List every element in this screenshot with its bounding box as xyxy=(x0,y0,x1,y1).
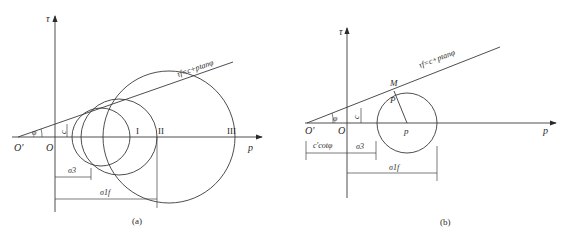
failure-envelope-line xyxy=(307,47,500,123)
sigma3-label: σ3 xyxy=(68,166,76,175)
c-label: c xyxy=(59,130,68,134)
origin-label: O xyxy=(46,142,53,153)
origin-prime-label: O' xyxy=(305,125,315,136)
phi-label: φ xyxy=(32,128,37,137)
c-label: c xyxy=(352,115,361,119)
sigma3-label: σ3 xyxy=(356,142,364,151)
circle-III-label: III xyxy=(227,126,236,136)
p-axis-label: p xyxy=(542,125,548,136)
panel-a: τ p O' O τf=c+ptanφ φ c I II III σ3 σ1f … xyxy=(12,13,262,226)
origin-prime-label: O' xyxy=(14,142,24,153)
center-label: p xyxy=(403,126,409,136)
caption-a: (a) xyxy=(132,216,142,226)
phi-angle-arc xyxy=(41,129,42,137)
circle-II-label: II xyxy=(158,126,164,136)
panel-b: τ p O' O τf=c+ptanφ φ c M P p c'cotφ σ3 … xyxy=(305,26,556,227)
sigma1f-label: σ1f xyxy=(100,188,112,197)
p-axis-label: p xyxy=(247,142,253,153)
phi-label: φ xyxy=(333,114,338,123)
tau-axis-label: τ xyxy=(339,26,343,37)
radius-line xyxy=(394,91,407,123)
circle-I-label: I xyxy=(136,126,139,136)
origin-label: O xyxy=(338,125,345,136)
tangent-point-label: M xyxy=(389,78,398,88)
tau-axis-label: τ xyxy=(46,13,50,24)
caption-b: (b) xyxy=(440,217,451,227)
envelope-equation-label: τf=c+ptanφ xyxy=(176,58,215,79)
sigma1f-label: σ1f xyxy=(389,163,401,172)
mohr-coulomb-diagram: τ p O' O τf=c+ptanφ φ c I II III σ3 σ1f … xyxy=(0,0,565,239)
ccot-label: c'cotφ xyxy=(313,141,333,150)
radius-label: P xyxy=(389,95,396,105)
